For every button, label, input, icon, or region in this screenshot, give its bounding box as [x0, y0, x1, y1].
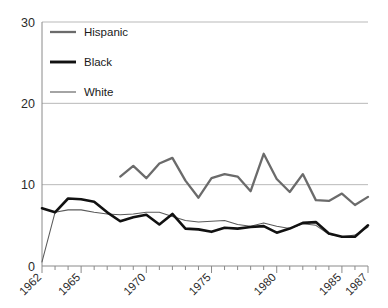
- legend-label-white: White: [84, 86, 113, 98]
- chart-canvas: 0102030 1962196519701975198019851987 His…: [0, 0, 388, 308]
- y-tick-label: 30: [21, 16, 35, 30]
- y-tick-label: 10: [21, 178, 35, 192]
- x-tick-label: 1962: [17, 271, 44, 298]
- y-axis-tick-labels: 0102030: [21, 16, 35, 274]
- legend-label-black: Black: [84, 56, 112, 68]
- x-axis-tick-labels: 1962196519701975198019851987: [17, 271, 370, 298]
- x-tick-label: 1975: [186, 271, 213, 298]
- x-tick-label: 1987: [343, 271, 370, 298]
- x-tick-label: 1970: [121, 271, 148, 298]
- series-line-black: [42, 198, 368, 236]
- series-line-white: [42, 210, 368, 262]
- legend-label-hispanic: Hispanic: [84, 26, 128, 38]
- chart-legend: Hispanic Black White: [50, 26, 128, 98]
- x-tick-label: 1965: [56, 271, 83, 298]
- x-tick-label: 1985: [317, 271, 344, 298]
- series-layer: [42, 154, 368, 262]
- series-line-hispanic: [120, 154, 368, 205]
- y-tick-label: 20: [21, 97, 35, 111]
- line-chart: 0102030 1962196519701975198019851987 His…: [0, 0, 388, 308]
- x-tick-label: 1980: [252, 271, 279, 298]
- gridlines: [42, 22, 368, 185]
